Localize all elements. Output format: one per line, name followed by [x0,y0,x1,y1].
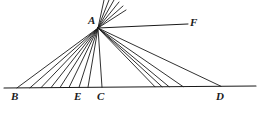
ray-left-5 [69,28,98,87]
ray-upper-2 [98,0,114,28]
point-label-a: A [88,15,95,26]
ray-right-3 [98,28,183,87]
point-label-b: B [11,91,18,102]
upper-ray-group [98,0,126,28]
ray-upper-5 [98,10,126,28]
ray-to-c [98,28,102,87]
point-label-c: C [97,91,104,102]
ray-left-1 [30,28,98,88]
ray-right-4 [98,28,221,86]
ray-af [98,24,188,28]
point-label-f: F [190,17,197,28]
ray-a-to-c [98,28,102,87]
geometry-figure: A B E C D F [0,0,260,114]
left-ray-group [17,28,98,88]
right-ray-group [98,28,221,87]
ray-a-to-f [98,24,188,28]
point-label-e: E [74,91,81,102]
point-label-d: D [216,91,224,102]
ray-right-2 [98,28,169,87]
ray-left-4 [60,28,98,88]
ray-right-1 [98,28,162,87]
ray-right-0 [98,28,155,87]
